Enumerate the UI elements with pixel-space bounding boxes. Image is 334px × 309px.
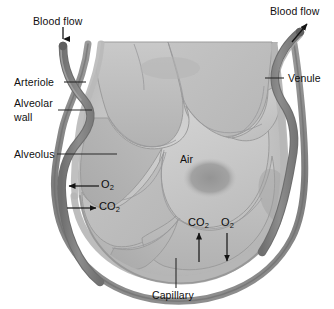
- label-blood-flow-in: Blood flow: [33, 15, 82, 27]
- label-blood-flow-out: Blood flow: [270, 5, 319, 17]
- label-alveolar-wall-line1: Alveolar: [14, 97, 53, 109]
- upper-shadow: [140, 57, 200, 79]
- label-co2-left: CO2: [99, 200, 120, 212]
- label-air: Air: [180, 153, 193, 165]
- label-alveolar-wall-line2: wall: [14, 111, 33, 123]
- label-co2-bottom: CO2: [188, 216, 209, 228]
- label-capillary: Capillary: [152, 289, 194, 301]
- alveolus-gas-exchange-figure: Blood flow Blood flow Arteriole Alveolar…: [0, 0, 334, 309]
- o2-subscript-bottom: 2: [230, 221, 234, 230]
- o2-symbol-left: O: [101, 178, 110, 190]
- co2-subscript-bottom: 2: [205, 221, 209, 230]
- label-alveolar-wall: Alveolar wall: [14, 97, 53, 124]
- o2-subscript-left: 2: [110, 183, 114, 192]
- co2-subscript-left: 2: [116, 205, 120, 214]
- co2-symbol-bottom: CO: [188, 216, 205, 228]
- label-alveolus: Alveolus: [14, 148, 55, 160]
- o2-symbol-bottom: O: [221, 216, 230, 228]
- co2-symbol-left: CO: [99, 200, 116, 212]
- label-o2-bottom: O2: [221, 216, 234, 228]
- label-venule: Venule: [288, 72, 321, 84]
- label-o2-left: O2: [101, 178, 114, 190]
- label-arteriole: Arteriole: [14, 76, 54, 88]
